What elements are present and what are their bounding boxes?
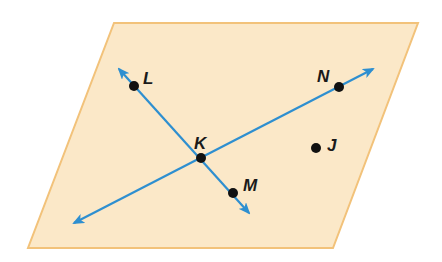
point-label-K: K: [194, 134, 208, 153]
point-L: [129, 81, 139, 91]
point-M: [228, 188, 238, 198]
point-label-L: L: [143, 69, 153, 88]
plane: [28, 23, 418, 248]
point-label-J: J: [327, 136, 337, 155]
geometry-diagram: LNKMJ: [0, 0, 442, 262]
point-K: [196, 153, 206, 163]
point-J: [311, 143, 321, 153]
point-N: [334, 82, 344, 92]
point-label-M: M: [243, 176, 258, 195]
point-label-N: N: [317, 67, 330, 86]
